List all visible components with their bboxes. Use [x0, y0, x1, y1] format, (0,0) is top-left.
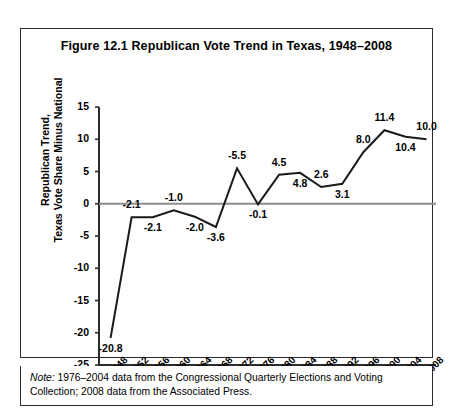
- data-series-line: [111, 130, 427, 338]
- figure-frame: Figure 12.1 Republican Vote Trend in Tex…: [20, 28, 433, 358]
- data-point-label: -5.5: [228, 149, 246, 161]
- data-point-label: -1.0: [165, 191, 183, 203]
- y-tick-label: 0: [59, 197, 89, 209]
- data-point-label: -2.1: [144, 221, 162, 233]
- data-point-label: -20.8: [99, 342, 123, 354]
- data-point-label: 8.0: [356, 133, 371, 145]
- note-lead: Note:: [30, 372, 55, 383]
- data-point-label: -2.0: [186, 221, 204, 233]
- data-point-label: 4.8: [293, 177, 308, 189]
- data-point-label: -3.6: [207, 231, 225, 243]
- data-point-label: 2.6: [314, 168, 329, 180]
- note-frame: Note: 1976–2004 data from the Congressio…: [20, 366, 433, 406]
- y-tick-label: 10: [59, 132, 89, 144]
- chart-plot-area: Republican Trend, Texas Vote Share Minus…: [21, 29, 434, 359]
- y-tick-label: -5: [59, 229, 89, 241]
- y-tick-label: -20: [59, 326, 89, 338]
- data-point-label: -0.1: [249, 208, 267, 220]
- chart-svg: [21, 29, 434, 359]
- y-tick-label: 5: [59, 165, 89, 177]
- data-point-label: 10.4: [395, 141, 415, 153]
- data-point-label: 10.0: [416, 120, 436, 132]
- y-tick-label: -10: [59, 261, 89, 273]
- y-tick-label: 15: [59, 100, 89, 112]
- y-tick-label: -15: [59, 294, 89, 306]
- axes-group: [99, 107, 436, 365]
- data-point-label: 11.4: [374, 111, 394, 123]
- data-point-label: 3.1: [335, 188, 350, 200]
- data-point-label: -2.1: [123, 198, 141, 210]
- data-point-label: 4.5: [272, 156, 287, 168]
- note-text: Note: 1976–2004 data from the Congressio…: [30, 371, 423, 398]
- note-body: 1976–2004 data from the Congressional Qu…: [30, 372, 383, 397]
